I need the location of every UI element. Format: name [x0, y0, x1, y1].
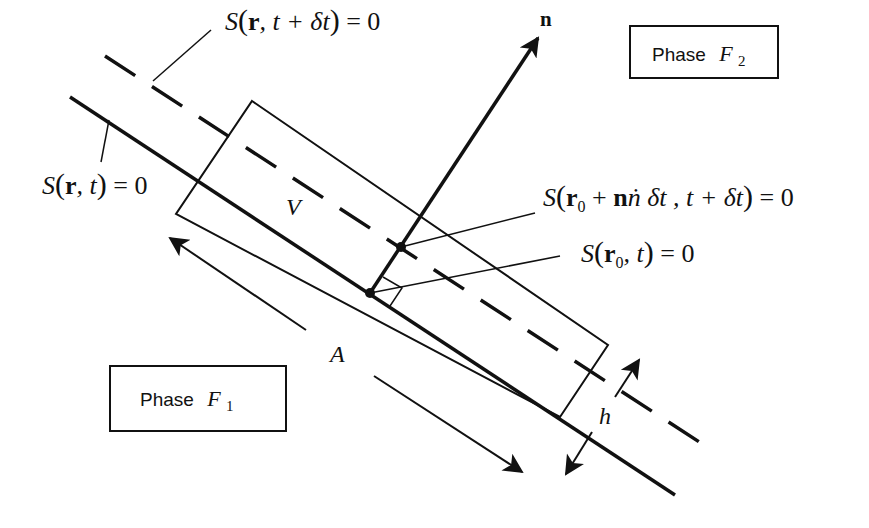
phase-f1-word: Phase	[140, 389, 194, 410]
leader-surface-now	[101, 120, 109, 162]
area-arrow-lower-right	[374, 376, 522, 472]
phase-f1-subscript: 1	[226, 398, 234, 414]
thickness-label: h	[599, 403, 611, 429]
area-arrow-upper-left	[170, 238, 306, 330]
interface-control-volume-diagram: Phase F 2 Phase F 1 n S(r, t + δt) = 0 S…	[0, 0, 869, 528]
label-point-t: S(r0, t) = 0	[581, 235, 694, 271]
svg-text:Phase F 2: Phase F 2	[652, 41, 745, 69]
phase-f2-subscript: 2	[738, 53, 746, 69]
thickness-arrow-up	[615, 360, 639, 397]
volume-label: V	[286, 194, 303, 220]
area-label: A	[328, 341, 345, 367]
right-angle-marker	[383, 277, 402, 306]
phase-f2-symbol: F	[718, 41, 733, 66]
leader-point-now	[370, 256, 560, 293]
normal-vector-arrow	[370, 38, 538, 293]
label-point-t-plus-dt: S(r0 + nṅ δt , t + δt) = 0	[543, 179, 794, 215]
svg-text:Phase F 1: Phase F 1	[140, 386, 233, 414]
normal-vector-label: n	[540, 7, 552, 31]
phase-f2-box: Phase F 2	[630, 26, 778, 78]
thickness-arrow-down	[566, 432, 592, 474]
phase-f1-symbol: F	[206, 386, 221, 411]
label-surface-t-plus-dt: S(r, t + δt) = 0	[225, 3, 380, 37]
phase-f1-box: Phase F 1	[110, 366, 286, 431]
leader-surface-later	[153, 30, 211, 81]
label-surface-t: S(r, t) = 0	[42, 167, 147, 201]
phase-f2-word: Phase	[652, 44, 706, 65]
